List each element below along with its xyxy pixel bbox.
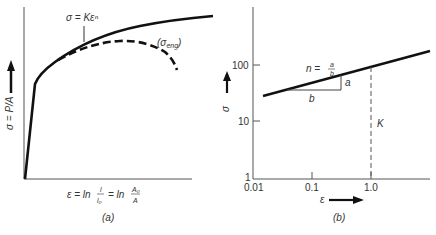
k-label: K <box>377 118 385 129</box>
panel-a: σ = Kεⁿ (σeng) σ = P/A ε = ln l l₀ = ln … <box>4 7 213 223</box>
slope-label: n = <box>306 63 320 74</box>
figure: σ = Kεⁿ (σeng) σ = P/A ε = ln l l₀ = ln … <box>0 0 436 235</box>
up-arrow-icon <box>223 71 231 81</box>
caption-b: (b) <box>333 212 345 223</box>
log-stress-strain-line <box>263 51 430 96</box>
svg-text:= ln: = ln <box>108 189 125 200</box>
slope-num: a <box>330 61 334 68</box>
svg-text:l₀: l₀ <box>97 197 102 204</box>
caption-a: (a) <box>102 212 114 223</box>
eng-curve-label: (σeng) <box>157 37 181 50</box>
x-tick-0.1: 0.1 <box>305 182 319 193</box>
rise-label: a <box>345 77 351 88</box>
y-axis-label-a: σ = P/A <box>4 96 15 130</box>
y-tick-10: 10 <box>238 116 250 127</box>
right-arrow-icon <box>353 196 364 204</box>
svg-text:l: l <box>100 186 102 193</box>
x-axis-label-a: ε = ln l l₀ = ln A₀ A <box>67 186 140 204</box>
y-axis-label-b: σ <box>220 105 231 112</box>
x-tick-1.0: 1.0 <box>364 182 378 193</box>
y-tick-100: 100 <box>232 60 249 71</box>
svg-text:A₀: A₀ <box>131 186 140 193</box>
slope-den: b <box>330 70 334 77</box>
panel-b: 100 10 1 0.01 0.1 1.0 a b n = a b K σ ε … <box>220 7 430 223</box>
svg-text:ε = ln: ε = ln <box>67 189 91 200</box>
x-axis-label-b: ε <box>320 194 325 205</box>
up-arrow-icon <box>7 60 15 71</box>
run-label: b <box>309 93 315 104</box>
x-tick-0.01: 0.01 <box>244 182 264 193</box>
true-curve-label: σ = Kεⁿ <box>66 12 98 23</box>
svg-text:A: A <box>132 197 138 204</box>
